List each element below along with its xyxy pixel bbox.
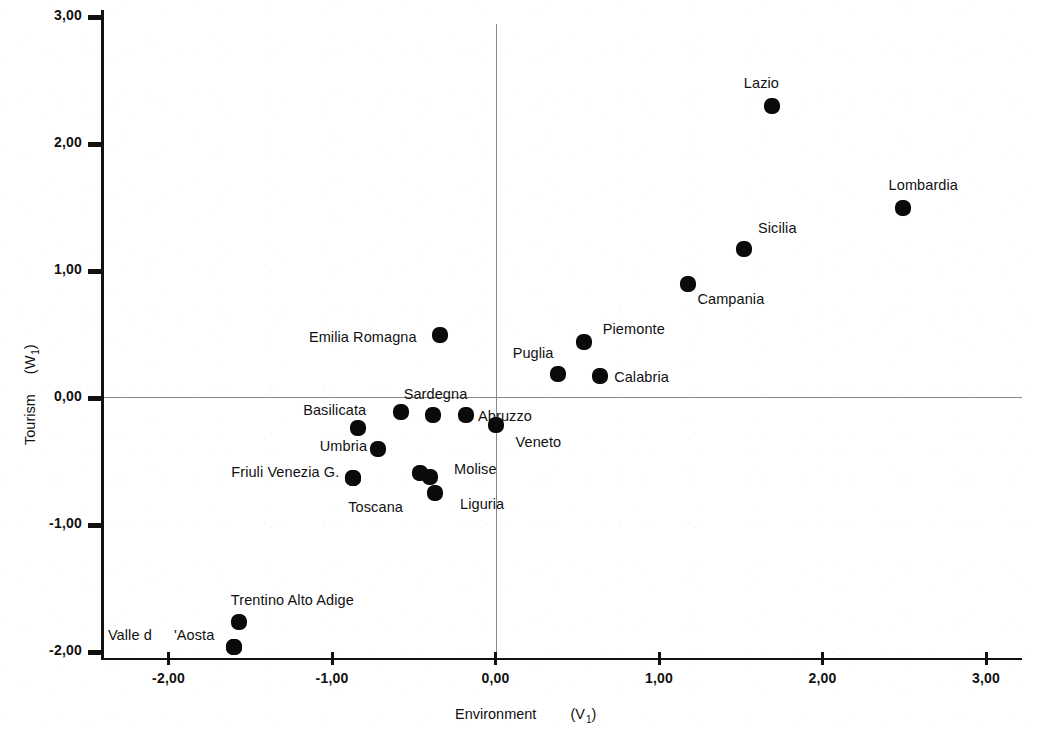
data-point[interactable]	[550, 366, 565, 381]
x-axis-title-paren: )	[592, 706, 597, 722]
data-point-label: Emilia Romagna	[309, 329, 417, 345]
x-axis-line	[101, 658, 1022, 660]
x-axis-tick-label: -1,00	[306, 670, 358, 686]
y-axis-line	[101, 10, 104, 660]
x-axis-title-text: Environment	[455, 706, 536, 722]
x-axis-tick	[658, 652, 661, 665]
data-point[interactable]	[370, 441, 385, 456]
data-point[interactable]	[459, 407, 474, 422]
data-point-label: Molise	[454, 461, 497, 477]
x-axis-title: Environment (V1)	[455, 706, 596, 725]
data-point-label: Sicilia	[758, 220, 797, 236]
data-point-label: Calabria	[614, 369, 669, 385]
y-zero-reference-line	[104, 397, 1022, 398]
data-point-label: Toscana	[348, 499, 403, 515]
y-axis-title-paren: )	[22, 344, 38, 349]
x-axis-tick-label: 1,00	[633, 670, 685, 686]
scatter-plot-canvas: LazioLombardiaSiciliaCampaniaPiemonteEmi…	[0, 0, 1039, 735]
y-axis-tick-label: -1,00	[8, 515, 82, 531]
x-axis-title-var: (V	[570, 706, 585, 722]
data-point[interactable]	[764, 98, 779, 113]
data-point[interactable]	[428, 486, 443, 501]
data-point-label: Liguria	[460, 496, 504, 512]
data-point[interactable]	[432, 327, 447, 342]
paper-grain-texture	[0, 0, 1039, 735]
data-point[interactable]	[895, 200, 910, 215]
data-point-label: Umbria	[320, 438, 367, 454]
data-point-label: Valle d	[108, 627, 152, 643]
x-axis-tick	[331, 652, 334, 665]
y-axis-tick-label: 2,00	[8, 134, 82, 150]
x-axis-tick-label: 2,00	[797, 670, 849, 686]
data-point[interactable]	[346, 471, 361, 486]
data-point[interactable]	[488, 417, 503, 432]
y-axis-title-var: (W	[22, 356, 38, 375]
data-point[interactable]	[737, 242, 752, 257]
data-point[interactable]	[681, 276, 696, 291]
data-point[interactable]	[351, 421, 366, 436]
y-axis-tick-label: 3,00	[8, 7, 82, 23]
data-point-label: Abruzzo	[478, 408, 532, 424]
y-axis-title-subscript: 1	[30, 349, 41, 356]
y-axis-tick	[88, 15, 104, 20]
x-axis-tick-label: 0,00	[470, 670, 522, 686]
x-axis-tick	[494, 652, 497, 665]
y-axis-tick-label: -2,00	[8, 642, 82, 658]
y-axis-tick	[88, 396, 104, 401]
data-point[interactable]	[576, 335, 591, 350]
data-point[interactable]	[426, 407, 441, 422]
data-point-label: Sardegna	[404, 386, 468, 402]
data-point-label: Basilicata	[303, 402, 366, 418]
data-point-label: Lombardia	[889, 177, 958, 193]
y-axis-tick-label: 1,00	[8, 261, 82, 277]
x-axis-tick-label: -2,00	[143, 670, 195, 686]
data-point-label: Puglia	[513, 345, 554, 361]
y-axis-tick	[88, 269, 104, 274]
data-point-label: Trentino Alto Adige	[231, 592, 354, 608]
data-point[interactable]	[231, 614, 246, 629]
x-zero-reference-line	[496, 24, 497, 658]
x-axis-tick-label: 3,00	[960, 670, 1012, 686]
x-axis-tick	[821, 652, 824, 665]
data-point[interactable]	[413, 465, 428, 480]
data-point[interactable]	[393, 404, 408, 419]
data-point-label: Campania	[697, 291, 764, 307]
data-point[interactable]	[593, 369, 608, 384]
data-point-label: 'Aosta	[174, 627, 214, 643]
y-axis-tick	[88, 142, 104, 147]
data-point-label: Veneto	[516, 434, 562, 450]
data-point-label: Friuli Venezia G.	[231, 464, 339, 480]
y-axis-tick	[88, 650, 104, 655]
data-point[interactable]	[226, 639, 241, 654]
y-axis-tick-label: 0,00	[8, 388, 82, 404]
data-point-label: Piemonte	[603, 321, 665, 337]
x-axis-tick	[167, 652, 170, 665]
data-point-label: Lazio	[744, 75, 779, 91]
y-axis-tick	[88, 523, 104, 528]
x-axis-tick	[985, 652, 988, 665]
